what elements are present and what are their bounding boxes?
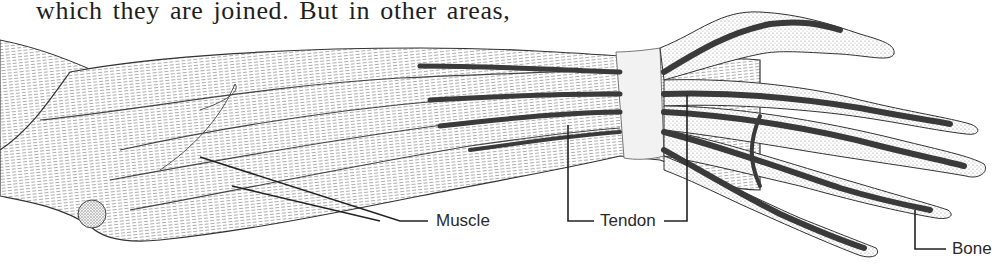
label-tendon: Tendon <box>600 212 656 230</box>
forearm-anatomy-illustration <box>0 0 996 269</box>
label-bone: Bone <box>952 240 992 258</box>
label-muscle: Muscle <box>436 212 490 230</box>
textbook-page: which they are joined. But in other area… <box>0 0 996 269</box>
wrist-ligament <box>616 48 664 159</box>
